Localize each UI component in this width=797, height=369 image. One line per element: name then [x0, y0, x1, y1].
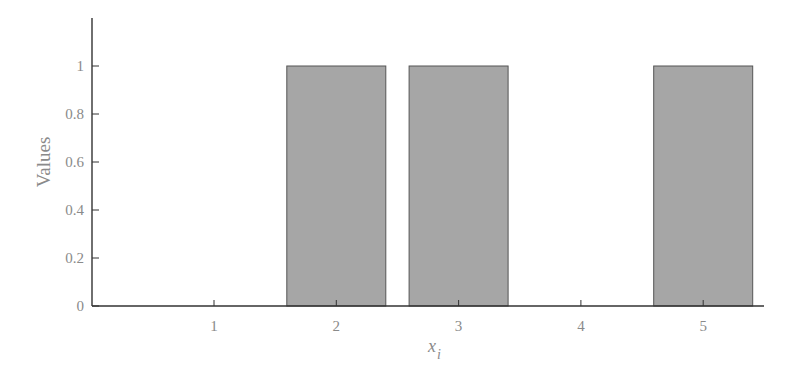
- y-tick-label: 0: [77, 298, 85, 314]
- y-tick-label: 0.8: [65, 106, 84, 122]
- y-axis-title: Values: [33, 137, 54, 188]
- y-ticks: 00.20.40.60.81: [65, 58, 99, 314]
- x-tick-label: 3: [455, 318, 463, 334]
- y-tick-label: 0.6: [65, 154, 84, 170]
- y-tick-label: 1: [77, 58, 85, 74]
- x-tick-label: 5: [699, 318, 707, 334]
- y-tick-label: 0.4: [65, 202, 84, 218]
- x-axis-title-sub: i: [437, 347, 441, 362]
- bar-5: [654, 66, 753, 306]
- bar-chart: 00.20.40.60.81 12345 Values xi: [0, 0, 797, 369]
- bar-2: [287, 66, 386, 306]
- bars: [287, 66, 753, 306]
- bar-3: [409, 66, 508, 306]
- x-ticks: 12345: [210, 300, 707, 334]
- x-tick-label: 2: [333, 318, 341, 334]
- x-axis-title: xi: [427, 336, 441, 362]
- x-axis-title-main: x: [427, 336, 436, 356]
- y-tick-label: 0.2: [65, 250, 84, 266]
- x-tick-label: 4: [577, 318, 585, 334]
- x-tick-label: 1: [210, 318, 218, 334]
